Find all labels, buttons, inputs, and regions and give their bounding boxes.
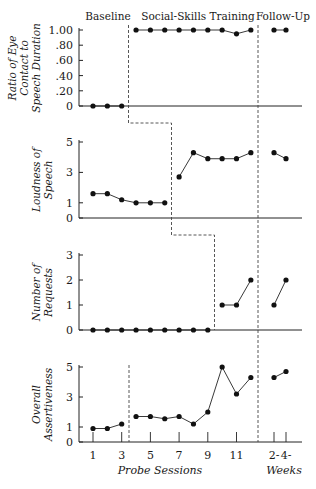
phase-labels: BaselineSocial-Skills TrainingFollow-Up xyxy=(85,10,310,22)
data-point xyxy=(105,103,110,108)
y-tick-label: 5 xyxy=(66,361,73,374)
data-line xyxy=(179,153,251,177)
data-point xyxy=(148,200,153,205)
data-point xyxy=(90,103,95,108)
y-tick-label: 3 xyxy=(66,391,73,404)
followup-tick-label: 4- xyxy=(281,449,292,462)
panel-2: 0135Loudness ofSpeech xyxy=(30,136,302,225)
y-tick-label: 0 xyxy=(66,100,73,113)
followup-point xyxy=(271,150,276,155)
data-point xyxy=(191,421,196,426)
data-point xyxy=(177,27,182,32)
data-point xyxy=(162,200,167,205)
data-point xyxy=(133,200,138,205)
panel-3: 0123Number ofRequests xyxy=(30,249,302,337)
phase-change-lines xyxy=(129,25,259,442)
data-point xyxy=(133,327,138,332)
data-point xyxy=(148,414,153,419)
data-point xyxy=(90,426,95,431)
x-tick-label: 11 xyxy=(230,449,244,462)
data-point xyxy=(177,327,182,332)
phase-label-training: Social-Skills Training xyxy=(141,10,255,22)
y-tick-label: 0 xyxy=(66,324,73,337)
svg-text:Speech Duration: Speech Duration xyxy=(30,23,42,113)
data-point xyxy=(119,197,124,202)
data-point xyxy=(234,391,239,396)
data-point xyxy=(205,27,210,32)
data-point xyxy=(234,31,239,36)
y-tick-label: 3 xyxy=(66,249,73,262)
data-point xyxy=(248,277,253,282)
svg-text:Number of: Number of xyxy=(30,262,42,323)
y-axis-label: OverallAssertiveness xyxy=(30,367,54,442)
svg-text:Assertiveness: Assertiveness xyxy=(42,367,54,442)
data-point xyxy=(133,414,138,419)
data-line xyxy=(136,367,251,424)
y-axis-label: Loudness ofSpeech xyxy=(30,146,54,213)
data-point xyxy=(105,426,110,431)
y-tick-label: .40 xyxy=(56,70,74,83)
x-axis-title: Probe Sessions xyxy=(117,464,203,477)
y-tick-label: 0 xyxy=(66,436,73,449)
data-point xyxy=(162,27,167,32)
y-tick-label: 1 xyxy=(66,421,73,434)
data-point xyxy=(205,327,210,332)
x-tick-label: 7 xyxy=(176,449,183,462)
data-point xyxy=(162,416,167,421)
y-tick-label: .60 xyxy=(56,54,74,67)
svg-text:Loudness of: Loudness of xyxy=(30,146,42,213)
y-tick-label: 0 xyxy=(66,212,73,225)
data-point xyxy=(177,414,182,419)
data-point xyxy=(220,156,225,161)
data-line xyxy=(93,194,165,203)
x-tick-label: 1 xyxy=(90,449,97,462)
data-point xyxy=(234,156,239,161)
svg-text:Overall: Overall xyxy=(30,385,42,424)
data-point xyxy=(119,327,124,332)
x-axis: 13579112-4-Probe SessionsWeeks xyxy=(90,432,303,477)
data-point xyxy=(248,27,253,32)
data-point xyxy=(133,27,138,32)
data-point xyxy=(205,409,210,414)
followup-point xyxy=(283,277,288,282)
data-point xyxy=(162,327,167,332)
y-tick-label: 1 xyxy=(66,197,73,210)
followup-point xyxy=(283,27,288,32)
y-tick-label: .80 xyxy=(56,39,74,52)
data-point xyxy=(205,156,210,161)
y-axis-label: Number ofRequests xyxy=(30,262,54,323)
data-line xyxy=(222,280,251,305)
data-point xyxy=(191,27,196,32)
data-point xyxy=(148,27,153,32)
data-point xyxy=(248,150,253,155)
svg-text:Requests: Requests xyxy=(42,267,54,317)
y-tick-label: 1 xyxy=(66,299,73,312)
data-point xyxy=(148,327,153,332)
x-tick-label: 9 xyxy=(204,449,211,462)
phase-label-baseline: Baseline xyxy=(85,10,130,22)
data-point xyxy=(234,302,239,307)
data-point xyxy=(105,327,110,332)
y-tick-label: .20 xyxy=(56,85,74,98)
data-point xyxy=(119,421,124,426)
multiple-baseline-chart: BaselineSocial-Skills TrainingFollow-Up … xyxy=(0,0,316,489)
data-point xyxy=(191,327,196,332)
x-tick-label: 3 xyxy=(118,449,125,462)
y-tick-label: 3 xyxy=(66,166,73,179)
followup-tick-label: 2- xyxy=(269,449,280,462)
followup-line xyxy=(274,280,286,305)
followup-point xyxy=(271,27,276,32)
data-point xyxy=(119,103,124,108)
phase-label-followup: Follow-Up xyxy=(256,10,310,22)
data-point xyxy=(191,150,196,155)
followup-point xyxy=(271,375,276,380)
followup-point xyxy=(283,156,288,161)
svg-text:Contact to: Contact to xyxy=(18,40,30,96)
staircase-phase-line xyxy=(129,25,215,330)
data-point xyxy=(177,174,182,179)
y-tick-label: 1.00 xyxy=(49,24,74,37)
followup-point xyxy=(283,369,288,374)
data-point xyxy=(90,327,95,332)
followup-axis-title: Weeks xyxy=(266,464,302,477)
data-point xyxy=(90,191,95,196)
